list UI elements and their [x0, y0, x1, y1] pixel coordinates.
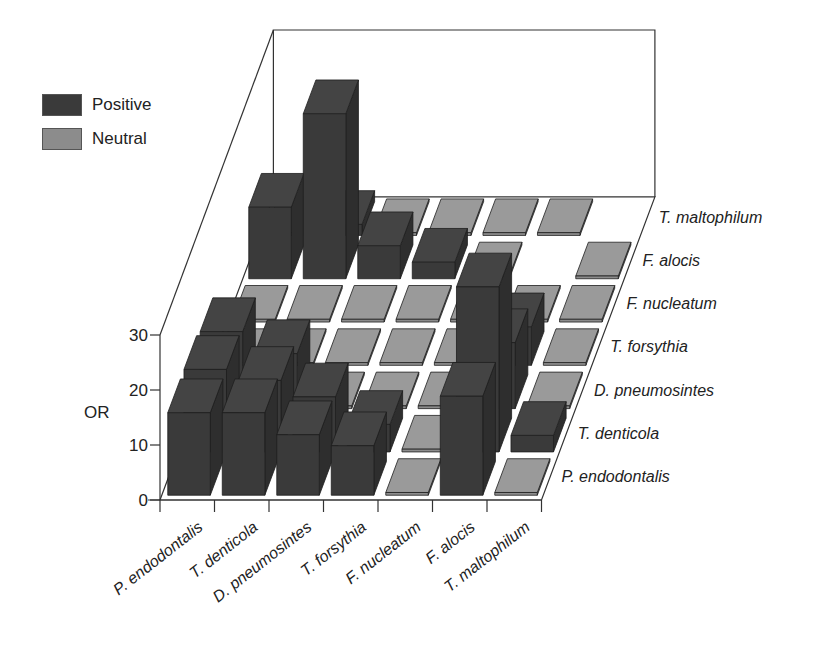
y-tick-30: 30: [108, 326, 148, 346]
bar-neutral-front: [483, 233, 526, 236]
bar-neutral-front: [543, 363, 586, 366]
depth-axis-label: P. endodontalis: [562, 468, 670, 486]
bar-neutral-top: [380, 329, 435, 363]
bar-positive-front: [358, 246, 401, 279]
y-axis-label: OR: [84, 403, 110, 423]
bar-neutral-front: [380, 363, 423, 366]
bar-neutral-top: [483, 199, 538, 233]
y-tick-0: 0: [108, 491, 148, 511]
bar-neutral-front: [402, 449, 445, 452]
y-tick-20: 20: [108, 381, 148, 401]
bar-positive-front: [511, 435, 554, 452]
bar-neutral-top: [428, 199, 483, 233]
bar-neutral-top: [543, 329, 598, 363]
bar-positive-front: [331, 446, 374, 496]
bar-positive-front: [412, 262, 455, 279]
bar-positive-front: [303, 114, 346, 279]
bar-neutral-front: [537, 233, 580, 236]
bar-positive-front: [249, 207, 292, 279]
legend-item-neutral: Neutral: [42, 126, 152, 152]
depth-axis-label: T. forsythia: [610, 338, 688, 356]
bar-neutral-front: [560, 319, 603, 322]
bar-neutral-top: [495, 459, 550, 493]
bar-neutral-front: [386, 492, 429, 495]
bar-neutral-top: [527, 372, 582, 406]
bar-positive-front: [277, 435, 320, 496]
bar-neutral-front: [396, 319, 439, 322]
bar-neutral-front: [495, 492, 538, 495]
depth-axis-label: T. maltophilum: [659, 209, 762, 227]
bar-neutral-top: [386, 459, 441, 493]
bar-positive-front: [168, 413, 211, 496]
legend-label-positive: Positive: [92, 95, 152, 115]
bar-neutral-top: [396, 286, 451, 320]
bar-neutral-top: [287, 286, 342, 320]
y-tick-10: 10: [108, 436, 148, 456]
legend-label-neutral: Neutral: [92, 129, 147, 149]
bar-neutral-front: [576, 276, 619, 279]
bar-neutral-top: [325, 329, 380, 363]
bar-neutral-top: [342, 286, 397, 320]
bar-neutral-top: [560, 286, 615, 320]
depth-axis-label: F. nucleatum: [626, 295, 716, 313]
depth-axis-label: D. pneumosintes: [594, 382, 714, 400]
depth-axis-label: F. alocis: [643, 252, 701, 270]
depth-axis-label: T. denticola: [578, 425, 659, 443]
bar-positive-front: [440, 396, 483, 495]
bar-neutral-top: [537, 199, 592, 233]
bar-positive-front: [222, 413, 265, 496]
bar-neutral-top: [576, 242, 631, 276]
legend-swatch-neutral: [42, 128, 82, 150]
legend: Positive Neutral: [42, 92, 152, 160]
legend-swatch-positive: [42, 94, 82, 116]
legend-item-positive: Positive: [42, 92, 152, 118]
bar-neutral-front: [342, 319, 385, 322]
